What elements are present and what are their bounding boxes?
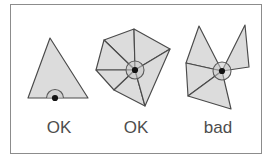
panel-boundary-vertex: OK bbox=[28, 38, 88, 137]
triangle-face bbox=[28, 38, 88, 98]
panel-caption: OK bbox=[47, 118, 72, 137]
panel-interior-fan: OK bbox=[96, 29, 170, 137]
vertex-dot bbox=[132, 67, 138, 73]
figure-root: OK OK bad bbox=[0, 0, 274, 166]
panel-nonmanifold-vertex: bad bbox=[186, 25, 249, 137]
panel-caption: bad bbox=[204, 118, 232, 137]
panel-caption: OK bbox=[124, 118, 149, 137]
vertex-fan-diagram: OK OK bad bbox=[0, 0, 274, 166]
vertex-dot bbox=[52, 95, 58, 101]
vertex-dot bbox=[219, 68, 225, 74]
